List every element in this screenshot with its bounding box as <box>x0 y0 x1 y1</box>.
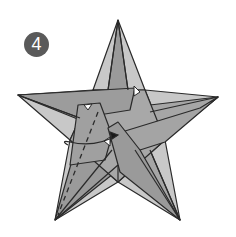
origami-star-diagram <box>0 0 236 237</box>
